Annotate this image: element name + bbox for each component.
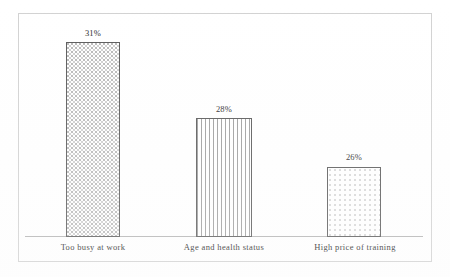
value-label-too-busy-at-work: 31% (63, 28, 123, 38)
bar-age-and-health-status (196, 118, 252, 237)
category-label-too-busy-at-work: Too busy at work (33, 242, 153, 252)
bar-chart-figure: 31% Too busy at work 28% Age and health … (0, 0, 450, 277)
value-label-high-price-of-training: 26% (324, 152, 384, 162)
plot-area: 31% Too busy at work 28% Age and health … (0, 0, 450, 277)
category-label-high-price-of-training: High price of training (293, 242, 417, 252)
value-label-age-and-health-status: 28% (194, 104, 254, 114)
bar-high-price-of-training (327, 167, 381, 237)
category-label-age-and-health-status: Age and health status (162, 242, 286, 252)
bar-too-busy-at-work (66, 42, 120, 237)
